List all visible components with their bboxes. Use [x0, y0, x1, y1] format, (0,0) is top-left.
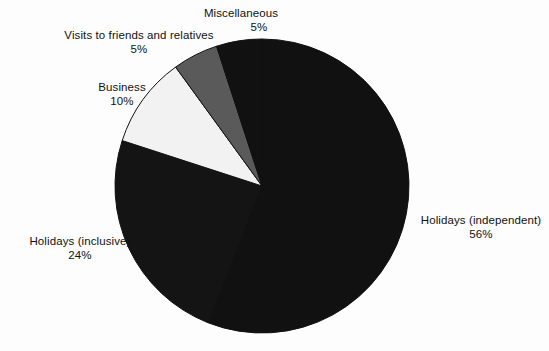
- pie-chart-figure: Miscellaneous 5% Visits to friends and r…: [0, 0, 549, 351]
- pie-label-miscellaneous-name: Miscellaneous: [178, 6, 304, 20]
- pie-label-visits-value: 5%: [48, 42, 230, 56]
- pie-label-holidays-independent-name: Holidays (independent): [414, 213, 548, 227]
- pie-label-holidays-inclusive-value: 24%: [4, 248, 156, 262]
- pie-label-business: Business 10%: [74, 80, 170, 108]
- pie-label-visits-name: Visits to friends and relatives: [48, 28, 230, 42]
- pie-label-business-value: 10%: [74, 94, 170, 108]
- pie-label-business-name: Business: [74, 80, 170, 94]
- pie-label-holidays-independent: Holidays (independent) 56%: [414, 213, 548, 241]
- pie-label-holidays-independent-value: 56%: [414, 227, 548, 241]
- pie-label-holidays-inclusive-name: Holidays (inclusive): [4, 234, 156, 248]
- pie-label-holidays-inclusive: Holidays (inclusive) 24%: [4, 234, 156, 262]
- pie-label-visits-to-friends-and-relatives: Visits to friends and relatives 5%: [48, 28, 230, 56]
